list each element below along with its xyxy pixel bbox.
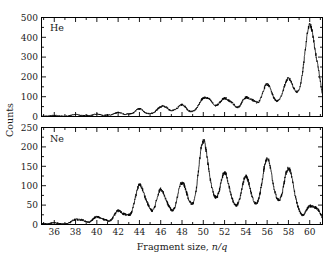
panel-label-he: He (50, 22, 64, 33)
y-axis-title: Counts (4, 103, 15, 137)
panel-ne: 050100150200250Ne (21, 123, 323, 230)
spectrum-plot-svg: 0100200300400500He 050100150200250Ne 363… (0, 0, 336, 259)
x-tick-label: 60 (304, 227, 316, 237)
x-axis-title: Fragment size, n/q (137, 241, 227, 252)
x-tick-label: 38 (70, 227, 82, 237)
x-tick-label: 56 (261, 227, 273, 237)
x-tick-label: 52 (219, 227, 230, 237)
x-tick-label: 46 (155, 227, 167, 237)
x-tick-label: 42 (112, 227, 123, 237)
mass-spectrum-figure: 0100200300400500He 050100150200250Ne 363… (0, 0, 336, 259)
y-tick-label: 200 (21, 72, 38, 82)
x-tick-label: 58 (283, 227, 295, 237)
y-tick-label: 100 (21, 181, 38, 191)
y-tick-label: 0 (32, 112, 38, 122)
y-tick-label: 200 (21, 142, 38, 152)
x-tick-label: 54 (240, 227, 252, 237)
spectrum-trace (42, 23, 323, 116)
figure-labels: 36384042444648505254565860Fragment size,… (4, 103, 316, 252)
plot-frame (42, 128, 323, 225)
y-tick-label: 300 (21, 52, 38, 62)
panel-label-ne: Ne (50, 133, 64, 144)
y-tick-label: 0 (32, 220, 38, 230)
y-tick-label: 250 (21, 123, 38, 133)
y-tick-label: 400 (21, 33, 38, 43)
spectrum-trace (42, 139, 323, 225)
x-tick-label: 36 (49, 227, 61, 237)
x-tick-label: 50 (198, 227, 210, 237)
x-tick-label: 40 (91, 227, 103, 237)
y-tick-label: 50 (27, 200, 39, 210)
panel-he: 0100200300400500He (21, 13, 323, 122)
x-tick-label: 48 (176, 227, 188, 237)
y-tick-label: 150 (21, 162, 38, 172)
plot-frame (42, 18, 323, 117)
y-tick-label: 500 (21, 13, 38, 23)
y-tick-label: 100 (21, 92, 38, 102)
x-tick-label: 44 (134, 227, 146, 237)
